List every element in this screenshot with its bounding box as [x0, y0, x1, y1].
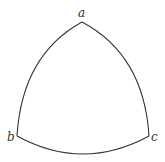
edge-b-c [17, 136, 149, 154]
edge-a-b [17, 22, 82, 136]
edge-a-c [82, 22, 149, 136]
vertex-label-b: b [7, 130, 15, 144]
vertex-label-c: c [151, 130, 158, 144]
curved-triangle-diagram: a b c [0, 0, 165, 162]
vertex-label-a: a [78, 6, 85, 20]
